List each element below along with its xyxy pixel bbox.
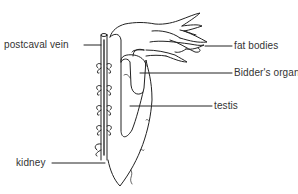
label-kidney: kidney bbox=[16, 157, 46, 168]
label-fat-bodies: fat bodies bbox=[234, 40, 278, 51]
label-testis: testis bbox=[214, 100, 238, 111]
kidney bbox=[108, 34, 152, 186]
bidders-organ bbox=[121, 49, 146, 66]
label-postcaval-vein: postcaval vein bbox=[4, 39, 69, 50]
fat-bodies bbox=[110, 13, 207, 62]
postcaval-vein bbox=[95, 34, 111, 161]
testis bbox=[121, 59, 143, 94]
leader-lines bbox=[52, 45, 232, 163]
label-bidders-organ: Bidder's organ bbox=[234, 67, 298, 78]
